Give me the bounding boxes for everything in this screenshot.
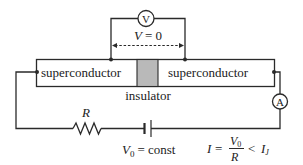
svg-text:<: <	[248, 141, 255, 156]
resistor-label: R	[81, 105, 90, 120]
voltmeter-right-junction-dot	[183, 58, 187, 62]
voltmeter-symbol: V	[142, 13, 150, 25]
insulator-block	[137, 60, 158, 87]
junction: superconductor superconductor insulator	[37, 60, 275, 104]
battery-icon	[145, 120, 152, 137]
svg-text:I: I	[206, 141, 212, 156]
svg-text:V0: V0	[230, 134, 241, 149]
current-formula: I = V0 R < IJ	[206, 134, 269, 164]
voltmeter-left-junction-dot	[109, 58, 113, 62]
right-superconductor-label: superconductor	[168, 65, 249, 80]
resistor-icon	[73, 123, 101, 134]
right-bottom-wire	[151, 109, 280, 129]
arrow-right-icon	[179, 43, 184, 48]
svg-text:IJ: IJ	[260, 141, 269, 157]
voltage-reading: V= 0	[134, 28, 162, 43]
insulator-label: insulator	[125, 88, 171, 103]
josephson-circuit-diagram: superconductor superconductor insulator …	[0, 0, 303, 165]
ammeter-symbol: A	[276, 96, 284, 108]
voltmeter-branch: V V= 0	[109, 11, 187, 62]
arrow-left-icon	[112, 43, 117, 48]
svg-text:=: =	[215, 141, 222, 156]
svg-text:R: R	[230, 150, 239, 164]
battery-label: V0= const	[122, 142, 176, 159]
left-superconductor-label: superconductor	[41, 65, 122, 80]
